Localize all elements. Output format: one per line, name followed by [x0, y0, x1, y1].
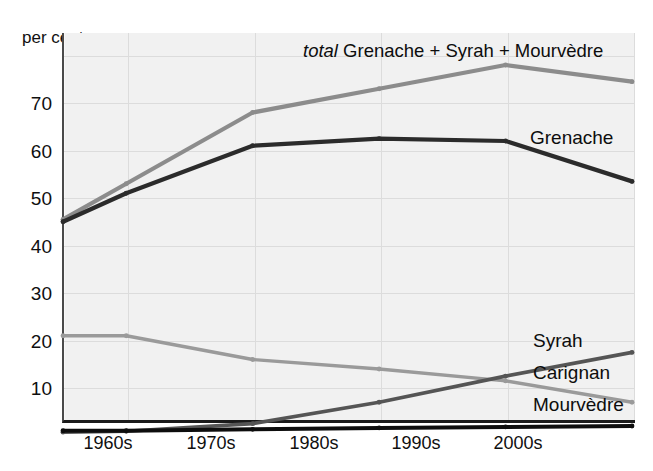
- gridline-vertical: [634, 33, 635, 420]
- series-label-syrah: Syrah: [533, 331, 583, 350]
- series-label-total: total Grenache + Syrah + Mourvèdre: [303, 42, 603, 61]
- gridline-vertical: [381, 33, 382, 420]
- gridline-horizontal: [64, 103, 635, 104]
- x-tick-1970s: 1970s: [166, 434, 256, 452]
- gridline-vertical: [255, 33, 256, 420]
- series-label-total-rest: Grenache + Syrah + Mourvèdre: [338, 40, 603, 61]
- gridline-horizontal: [64, 246, 635, 247]
- gridline-horizontal: [64, 388, 635, 389]
- series-label-carignan: Carignan: [533, 363, 610, 382]
- series-label-total-italic: total: [303, 40, 338, 61]
- data-point: [250, 427, 255, 432]
- gridline-horizontal: [64, 198, 635, 199]
- data-point: [503, 425, 508, 430]
- x-tick-1960s: 1960s: [63, 434, 153, 452]
- y-tick-70: 70: [6, 94, 52, 113]
- gridline-horizontal: [64, 293, 635, 294]
- gridline-vertical: [508, 33, 509, 420]
- gridline-vertical: [128, 33, 129, 420]
- x-tick-1980s: 1980s: [269, 434, 359, 452]
- series-label-mourvedre: Mourvèdre: [533, 395, 624, 414]
- data-point: [61, 428, 66, 433]
- x-tick-2000s: 2000s: [473, 434, 563, 452]
- series-label-grenache: Grenache: [530, 128, 613, 147]
- gridline-horizontal: [64, 151, 635, 152]
- series-line-mourv-dre: [63, 426, 632, 431]
- chart-figure: per cent 70 60 50 40 30 20 10 1960s 1970…: [0, 0, 653, 471]
- data-point: [630, 424, 635, 429]
- y-tick-20: 20: [6, 332, 52, 351]
- x-tick-1990s: 1990s: [371, 434, 461, 452]
- y-tick-10: 10: [6, 379, 52, 398]
- y-tick-50: 50: [6, 189, 52, 208]
- y-tick-30: 30: [6, 284, 52, 303]
- y-tick-40: 40: [6, 237, 52, 256]
- y-tick-60: 60: [6, 142, 52, 161]
- data-point: [377, 426, 382, 431]
